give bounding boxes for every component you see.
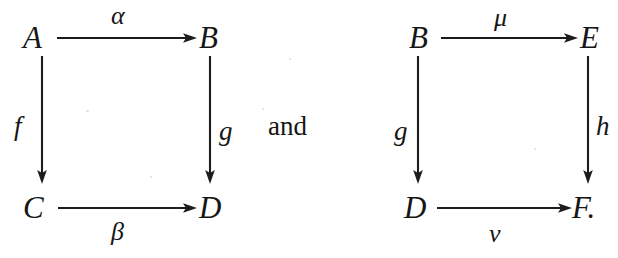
diagram-canvas: A B C D α f g β and B E D: [0, 0, 618, 258]
arrow-left-square-right: [203, 56, 217, 184]
object-right-square-top-right: E: [580, 22, 599, 53]
object-left-square-bottom-right: D: [199, 192, 222, 223]
arrow-left-square-bottom: [58, 201, 197, 215]
scan-speck: [86, 110, 89, 112]
arrow-right-square-top: [441, 31, 578, 45]
scan-speck: [262, 108, 264, 110]
connective-and: and: [268, 113, 307, 140]
scan-speck: [150, 176, 152, 178]
object-right-square-bottom-left: D: [404, 192, 427, 223]
object-left-square-top-right: B: [199, 22, 218, 53]
arrow-left-square-left: [35, 56, 49, 184]
morphism-label-left-square-bottom: β: [111, 218, 124, 245]
morphism-label-right-square-left: g: [394, 118, 408, 145]
arrow-left-square-top: [57, 31, 197, 45]
scan-speck: [289, 58, 291, 60]
object-left-square-top-left: A: [23, 22, 42, 53]
arrow-right-square-bottom: [437, 201, 572, 215]
morphism-label-left-square-right: g: [219, 118, 233, 145]
morphism-label-right-square-bottom: ν: [489, 220, 501, 247]
scan-speck: [534, 148, 536, 150]
arrow-right-square-left: [411, 56, 425, 184]
object-left-square-bottom-left: C: [23, 192, 44, 223]
morphism-label-left-square-top: α: [111, 2, 125, 29]
arrow-right-square-right: [581, 56, 595, 184]
object-right-square-bottom-right: F.: [572, 192, 596, 223]
morphism-label-right-square-top: μ: [494, 4, 507, 31]
object-right-square-top-left: B: [409, 22, 428, 53]
morphism-label-left-square-left: f: [14, 113, 22, 140]
morphism-label-right-square-right: h: [596, 113, 610, 140]
